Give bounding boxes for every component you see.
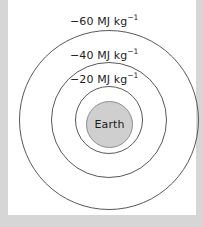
earth-body: Earth <box>86 101 133 148</box>
equipotential-label-20-unit: MJ kg <box>97 73 127 86</box>
equipotential-label-20-value: −20 <box>70 73 94 86</box>
equipotential-label-40-value: −40 <box>70 49 94 62</box>
equipotential-label-60-unit: MJ kg <box>97 15 127 28</box>
equipotential-label-60: −60 MJ kg−1 <box>70 16 138 27</box>
equipotential-label-40-unit: MJ kg <box>97 49 127 62</box>
earth-label: Earth <box>95 119 125 130</box>
equipotential-label-40-exponent: −1 <box>127 47 138 56</box>
equipotential-label-40: −40 MJ kg−1 <box>70 50 138 61</box>
equipotential-label-20-exponent: −1 <box>127 71 138 80</box>
equipotential-label-20: −20 MJ kg−1 <box>70 74 138 85</box>
equipotential-label-60-exponent: −1 <box>127 13 138 22</box>
diagram-panel: Earth −60 MJ kg−1 −40 MJ kg−1 −20 MJ kg−… <box>8 0 196 215</box>
equipotential-label-60-value: −60 <box>70 15 94 28</box>
gravitational-potential-diagram: Earth −60 MJ kg−1 −40 MJ kg−1 −20 MJ kg−… <box>0 0 203 227</box>
